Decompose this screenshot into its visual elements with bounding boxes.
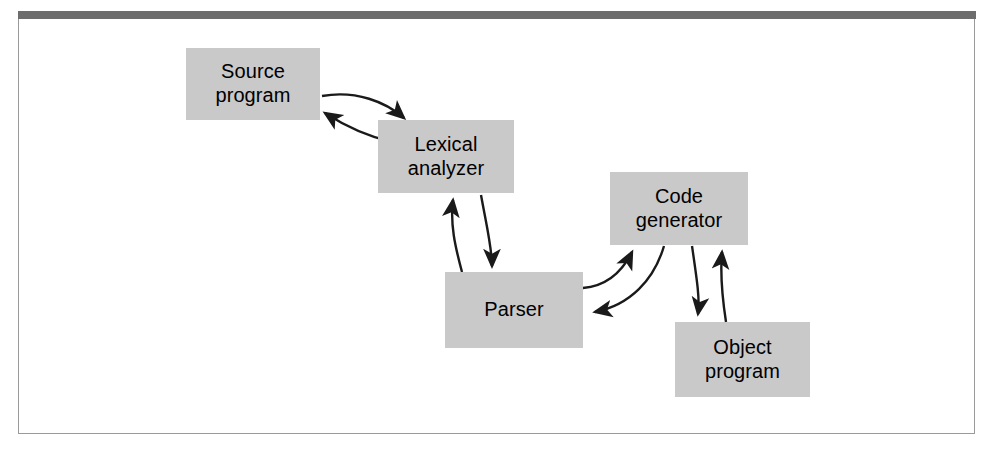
edge-object-to-codegen <box>721 252 726 322</box>
edge-source-to-lexical <box>322 94 404 118</box>
figure-root: Source program Lexical analyzer Parser C… <box>0 0 989 453</box>
node-code-generator: Code generator <box>610 172 748 245</box>
diagram-arrow-layer <box>0 0 989 453</box>
node-object-program-label: Object program <box>699 336 786 383</box>
node-lexical-analyzer: Lexical analyzer <box>378 120 514 193</box>
node-source-program: Source program <box>186 48 320 120</box>
node-lexical-analyzer-label: Lexical analyzer <box>402 133 490 180</box>
edge-parser-to-codegen <box>583 252 632 288</box>
edge-lexical-to-parser <box>481 195 492 266</box>
edge-parser-to-lexical <box>452 200 462 272</box>
node-source-program-label: Source program <box>209 60 296 107</box>
node-parser-label: Parser <box>478 298 550 322</box>
node-code-generator-label: Code generator <box>630 185 729 232</box>
edge-codegen-to-object <box>692 246 699 314</box>
node-parser: Parser <box>445 272 583 348</box>
node-object-program: Object program <box>675 322 810 397</box>
